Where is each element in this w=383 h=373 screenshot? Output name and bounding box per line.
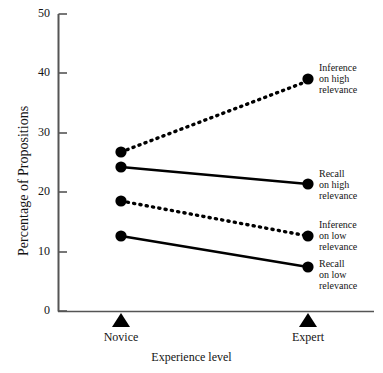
series-label-line: relevance	[319, 241, 357, 252]
data-point-recall-high-expert	[302, 178, 313, 189]
data-point-inference-high-expert	[302, 73, 313, 84]
series-label-line: on high	[319, 73, 357, 84]
series-label-line: on high	[319, 179, 357, 190]
y-tick-label-40: 40	[20, 65, 50, 80]
x-axis-title: Experience level	[0, 350, 383, 365]
series-line-inference-high	[121, 81, 308, 152]
data-point-recall-high-novice	[115, 161, 126, 172]
series-label-line: Recall	[319, 168, 357, 179]
y-axis-title: Percentage of Propositions	[16, 106, 32, 256]
data-point-recall-low-novice	[115, 230, 126, 241]
y-tick-label-50: 50	[20, 6, 50, 21]
category-marker-expert	[299, 313, 317, 327]
series-label-inference-high: Inference on high relevance	[319, 62, 357, 96]
series-label-line: Recall	[319, 258, 357, 269]
category-marker-novice	[112, 313, 130, 327]
series-label-line: Inference	[319, 219, 357, 230]
chart-container: 50 40 30 20 10 0 Novice Expert Experienc…	[0, 0, 383, 373]
x-category-label-novice: Novice	[81, 330, 161, 345]
series-label-line: relevance	[319, 84, 357, 95]
data-point-inference-high-novice	[115, 146, 126, 157]
series-label-inference-low: Inference on low relevance	[319, 219, 357, 253]
series-label-line: relevance	[319, 190, 357, 201]
series-label-recall-high: Recall on high relevance	[319, 168, 357, 202]
y-tick-label-0: 0	[20, 303, 50, 318]
data-point-inference-low-expert	[302, 230, 313, 241]
series-line-recall-low	[121, 236, 308, 267]
data-point-inference-low-novice	[115, 195, 126, 206]
series-label-recall-low: Recall on low relevance	[319, 258, 357, 292]
series-label-line: relevance	[319, 280, 357, 291]
series-label-line: on low	[319, 230, 357, 241]
series-label-line: on low	[319, 269, 357, 280]
x-category-label-expert: Expert	[268, 330, 348, 345]
series-line-recall-high	[121, 167, 308, 184]
data-point-recall-low-expert	[302, 261, 313, 272]
series-label-line: Inference	[319, 62, 357, 73]
series-line-inference-low	[121, 201, 308, 236]
